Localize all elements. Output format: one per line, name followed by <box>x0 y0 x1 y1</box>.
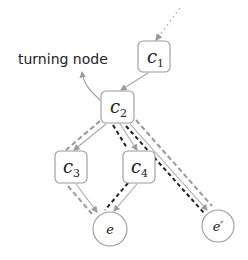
turning-node-annotation: turning node <box>18 51 108 67</box>
node-c1: c1 <box>138 41 170 72</box>
edge-c4-e <box>114 184 137 211</box>
diagram-canvas: c1 c2 c3 c4 e e′ turning node <box>0 0 248 260</box>
node-e-prime-label: e′ <box>213 219 224 234</box>
black-dashed-c4-e <box>105 183 128 210</box>
node-e-prime: e′ <box>202 210 234 242</box>
node-c4: c4 <box>123 151 155 183</box>
edge-c1-c2 <box>121 73 148 90</box>
node-c2: c2 <box>101 91 134 123</box>
gray-dashed-c2-c3 <box>66 121 100 150</box>
black-dashed-c2-c4 <box>113 125 127 148</box>
turning-node-arrow <box>82 72 100 100</box>
edge-c2-c3 <box>74 124 106 150</box>
node-e: e <box>93 212 127 246</box>
incoming-edge <box>156 8 180 40</box>
node-e-label: e <box>106 222 114 237</box>
node-c3: c3 <box>55 151 87 183</box>
